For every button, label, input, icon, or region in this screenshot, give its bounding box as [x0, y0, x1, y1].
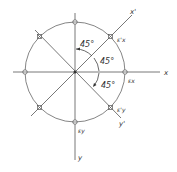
angle-label-1: 45° [80, 40, 94, 49]
strain-diagram: 45° 45° 45° x y x' y' εx εy ε'x ε'y [0, 0, 177, 172]
ex-label: εx [128, 77, 135, 84]
ey-prime-label: ε'y [117, 106, 126, 114]
angle-label-3: 45° [101, 81, 115, 90]
ey-label: εy [78, 127, 85, 135]
y-prime-axis [35, 30, 121, 118]
x-prime-axis [31, 15, 132, 116]
x-axis-label: x [163, 69, 169, 77]
ex-prime-label: ε'x [117, 36, 126, 43]
center-point [74, 71, 77, 74]
y-axis-label: y [77, 154, 83, 162]
x-prime-label: x' [129, 8, 136, 16]
y-prime-label: y' [118, 120, 125, 128]
angle-label-2: 45° [100, 57, 114, 66]
